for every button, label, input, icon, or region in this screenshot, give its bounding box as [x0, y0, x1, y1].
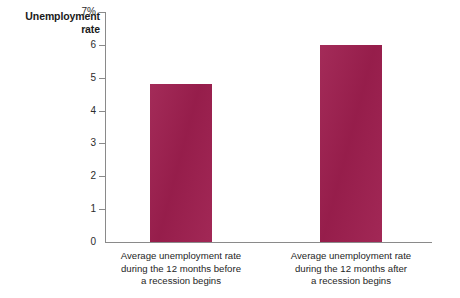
x-axis-line: [105, 242, 432, 243]
y-tick-label: 6: [90, 38, 96, 52]
y-tick-label: 3: [90, 136, 96, 150]
bar-before-recession: [150, 84, 212, 242]
y-tick-label: 5: [90, 71, 96, 85]
y-tick-mark: [99, 111, 105, 112]
category-label-line: during the 12 months before: [88, 263, 274, 276]
y-tick-mark: [99, 45, 105, 46]
y-tick-mark: [99, 209, 105, 210]
unemployment-rate-bar-chart: Unemployment rate 7% 6 5 4 3 2: [0, 0, 460, 298]
y-tick-mark: [99, 143, 105, 144]
category-label-line: a recession begins: [258, 275, 444, 288]
plot-area: 7% 6 5 4 3 2 1 0: [105, 12, 432, 243]
bar-after-recession: [320, 45, 382, 242]
category-label-line: a recession begins: [88, 275, 274, 288]
category-label-line: during the 12 months after: [258, 263, 444, 276]
y-tick-label: 7%: [82, 5, 96, 19]
y-tick-label: 4: [90, 104, 96, 118]
y-axis-line: [105, 12, 106, 243]
y-tick-label: 2: [90, 169, 96, 183]
y-tick-mark: [99, 176, 105, 177]
category-label-before-recession: Average unemployment rate during the 12 …: [88, 250, 274, 288]
y-tick-label: 1: [90, 202, 96, 216]
y-tick-mark: [99, 78, 105, 79]
category-label-line: Average unemployment rate: [258, 250, 444, 263]
y-tick-mark: [99, 12, 105, 13]
category-label-line: Average unemployment rate: [88, 250, 274, 263]
y-axis-title-line-2: rate: [12, 23, 100, 36]
y-tick-label: 0: [90, 235, 96, 249]
category-label-after-recession: Average unemployment rate during the 12 …: [258, 250, 444, 288]
